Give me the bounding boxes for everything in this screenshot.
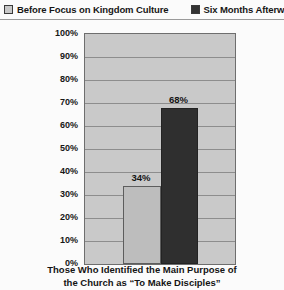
bar-value-label: 34% — [122, 172, 160, 183]
gridline — [85, 149, 235, 150]
bar-before-focus — [123, 186, 161, 264]
chart-legend: Before Focus on Kingdom Culture Six Mont… — [0, 0, 284, 19]
legend-divider — [0, 19, 284, 20]
y-axis-tick-label: 40% — [38, 166, 78, 176]
y-axis-tick-label: 70% — [38, 97, 78, 107]
y-axis-tick-label: 80% — [38, 74, 78, 84]
caption-line-2: the Church as “To Make Disciples” — [26, 277, 258, 290]
chart-plot-wrapper: 100%90%80%70%60%50%40%30%20%10%0% 34% 68… — [0, 24, 284, 269]
y-axis-tick-label: 90% — [38, 51, 78, 61]
gridline — [85, 172, 235, 173]
gridline — [85, 126, 235, 127]
caption-line-1: Those Who Identified the Main Purpose of — [26, 264, 258, 277]
y-axis-tick-label: 60% — [38, 120, 78, 130]
plot-area — [84, 33, 236, 265]
legend-item-six-months-afterward: Six Months Afterward — [191, 4, 284, 15]
legend-item-label: Before Focus on Kingdom Culture — [17, 4, 169, 15]
y-axis-tick-label: 20% — [38, 212, 78, 222]
y-axis-tick-label: 100% — [38, 28, 78, 38]
y-axis-tick-label: 50% — [38, 143, 78, 153]
dark-gray-swatch-icon — [191, 5, 200, 14]
bar-six-months-afterward — [161, 108, 198, 264]
legend-item-label: Six Months Afterward — [204, 4, 284, 15]
legend-item-before-focus: Before Focus on Kingdom Culture — [4, 4, 169, 15]
y-axis-tick-label: 30% — [38, 189, 78, 199]
gridline — [85, 57, 235, 58]
x-axis-caption: Those Who Identified the Main Purpose of… — [26, 264, 258, 289]
bar-value-label: 68% — [160, 94, 197, 105]
gridline — [85, 80, 235, 81]
y-axis-tick-label: 10% — [38, 235, 78, 245]
light-gray-swatch-icon — [4, 5, 13, 14]
